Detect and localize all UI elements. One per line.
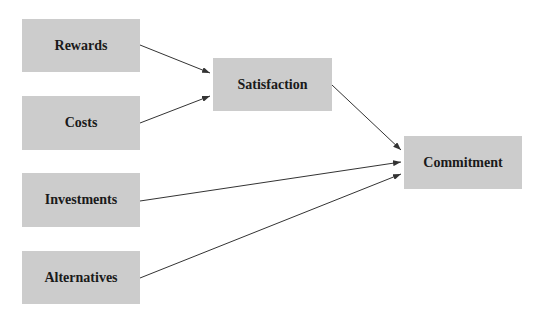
node-investments: Investments [22, 173, 140, 227]
node-alternatives: Alternatives [22, 251, 140, 304]
edge-alternatives-to-commitment [140, 174, 401, 278]
node-commitment: Commitment [404, 136, 522, 189]
node-label-alternatives: Alternatives [44, 270, 117, 286]
node-rewards: Rewards [22, 19, 140, 72]
edge-investments-to-commitment [140, 162, 401, 201]
node-label-rewards: Rewards [55, 38, 108, 54]
node-label-satisfaction: Satisfaction [238, 77, 308, 93]
edge-rewards-to-satisfaction [140, 45, 210, 73]
node-costs: Costs [22, 96, 140, 150]
node-satisfaction: Satisfaction [213, 58, 332, 111]
node-label-costs: Costs [65, 115, 98, 131]
node-label-commitment: Commitment [423, 155, 502, 171]
edge-costs-to-satisfaction [140, 96, 210, 123]
node-label-investments: Investments [45, 192, 117, 208]
edge-satisfaction-to-commitment [332, 85, 401, 150]
